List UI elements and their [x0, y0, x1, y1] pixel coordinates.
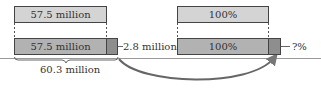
- left-base-bar: 57.5 million: [14, 38, 107, 55]
- left-base-bar-label: 57.5 million: [30, 42, 90, 52]
- left-total-label: 60.3 million: [40, 65, 100, 75]
- right-original-bar-label: 100%: [209, 10, 238, 20]
- total-brace: [15, 57, 119, 63]
- right-increment-label: ?%: [292, 42, 307, 52]
- right-increment-segment: [268, 38, 281, 55]
- right-base-bar: 100%: [177, 38, 269, 55]
- right-original-bar: 100%: [177, 6, 269, 23]
- right-base-bar-label: 100%: [209, 42, 238, 52]
- left-increment-label: 2.8 million: [123, 42, 177, 52]
- curved-arrow: [119, 58, 274, 80]
- left-increment-segment: [106, 38, 118, 55]
- left-original-bar: 57.5 million: [14, 6, 107, 23]
- left-original-bar-label: 57.5 million: [30, 10, 90, 20]
